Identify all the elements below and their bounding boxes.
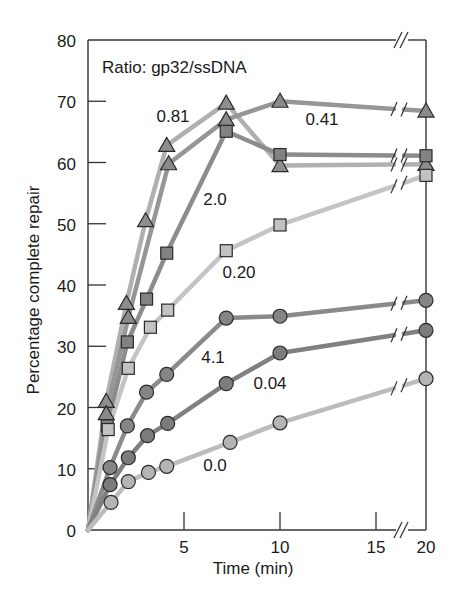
series-line-segment <box>280 101 394 109</box>
data-point-0.04 <box>161 416 175 430</box>
y-axis-title: Percentage complete repair <box>24 185 43 394</box>
data-point-2.0 <box>220 125 232 137</box>
y-tick-label: 30 <box>57 338 76 357</box>
data-point-4.1 <box>419 293 433 307</box>
data-point-0.20 <box>274 219 286 231</box>
series-line-segment <box>280 186 394 225</box>
data-point-0.0 <box>121 475 135 489</box>
data-point-0.20 <box>102 424 114 436</box>
data-point-4.1 <box>140 385 154 399</box>
y-tick-label: 80 <box>57 32 76 51</box>
data-point-0.04 <box>141 429 155 443</box>
y-tick-label: 70 <box>57 93 76 112</box>
x-tick-label: 5 <box>179 538 188 557</box>
series-label-0.41: 0.41 <box>305 110 338 129</box>
data-point-0.20 <box>220 245 232 257</box>
data-point-2.0 <box>274 149 286 161</box>
data-point-0.20 <box>420 169 432 181</box>
data-point-0.0 <box>160 459 174 473</box>
data-point-0.0 <box>223 435 237 449</box>
x-axis-title: Time (min) <box>213 559 294 578</box>
series-line-segment <box>280 155 394 156</box>
data-point-0.04 <box>419 323 433 337</box>
series-line-segment <box>280 165 394 166</box>
data-point-0.81 <box>138 213 154 227</box>
y-tick-label: 20 <box>57 400 76 419</box>
data-point-0.20 <box>122 362 134 374</box>
data-point-0.20 <box>144 321 156 333</box>
data-point-4.1 <box>103 461 117 475</box>
x-tick-label: 20 <box>417 538 436 557</box>
y-tick-label: 60 <box>57 155 76 174</box>
series-layer <box>88 93 434 530</box>
series-label-4.1: 4.1 <box>201 348 225 367</box>
series-label-0.20: 0.20 <box>222 263 255 282</box>
series-line-segment <box>280 388 394 422</box>
data-point-0.0 <box>104 495 118 509</box>
x-tick-label: 10 <box>271 538 290 557</box>
data-point-0.04 <box>103 478 117 492</box>
chart-title: Ratio: gp32/ssDNA <box>102 58 247 77</box>
data-point-4.1 <box>273 309 287 323</box>
series-line-segment <box>280 335 394 353</box>
data-point-0.0 <box>419 372 433 386</box>
data-point-4.1 <box>120 419 134 433</box>
series-label-2.0: 2.0 <box>203 190 227 209</box>
data-point-0.20 <box>162 304 174 316</box>
data-point-0.04 <box>121 451 135 465</box>
y-tick-label: 40 <box>57 277 76 296</box>
y-tick-label: 0 <box>67 522 76 541</box>
x-tick-label: 15 <box>367 538 386 557</box>
data-point-2.0 <box>420 150 432 162</box>
data-point-2.0 <box>121 336 133 348</box>
y-tick-label: 50 <box>57 216 76 235</box>
data-point-2.0 <box>141 293 153 305</box>
y-tick-label: 10 <box>57 461 76 480</box>
data-point-0.0 <box>273 416 287 430</box>
data-point-2.0 <box>161 247 173 259</box>
data-point-0.04 <box>273 346 287 360</box>
data-point-0.0 <box>141 465 155 479</box>
series-label-0.04: 0.04 <box>253 374 286 393</box>
series-label-0.0: 0.0 <box>203 456 227 475</box>
data-point-4.1 <box>219 311 233 325</box>
data-point-0.81 <box>218 95 234 109</box>
line-chart: 010203040506070805101520 0.810.412.00.20… <box>0 0 460 615</box>
data-point-0.04 <box>219 377 233 391</box>
series-line-segment <box>280 304 394 316</box>
data-point-4.1 <box>160 367 174 381</box>
series-label-0.81: 0.81 <box>156 107 189 126</box>
